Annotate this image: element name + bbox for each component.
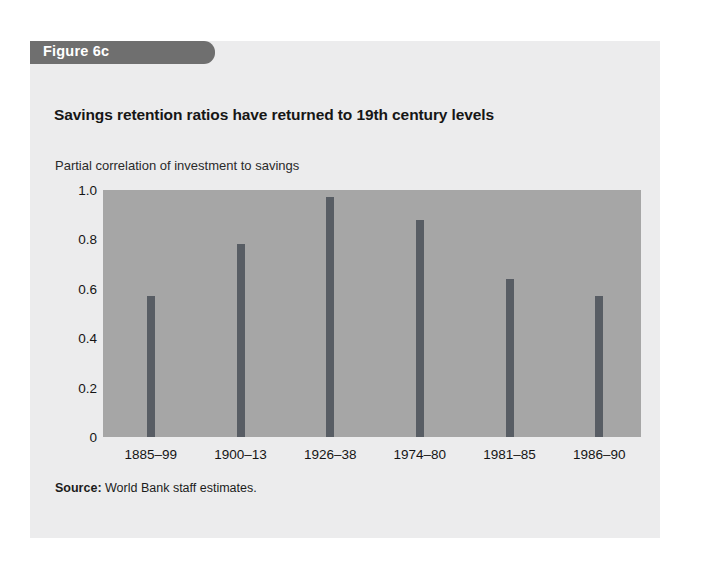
- source-line: Source: World Bank staff estimates.: [55, 481, 257, 495]
- x-axis-tick-label: 1900–13: [214, 447, 267, 462]
- x-axis-tick-label: 1885–99: [125, 447, 178, 462]
- y-axis: 00.20.40.60.81.0: [55, 190, 97, 437]
- bar: [326, 197, 334, 437]
- x-axis-tick-label: 1974–80: [394, 447, 447, 462]
- bar: [237, 244, 245, 437]
- source-label: Source:: [55, 481, 102, 495]
- bar: [595, 296, 603, 437]
- bar: [416, 220, 424, 437]
- y-axis-tick-label: 0.8: [78, 232, 97, 247]
- y-axis-tick-label: 0.6: [78, 281, 97, 296]
- chart-subtitle-axis-label: Partial correlation of investment to sav…: [55, 158, 299, 173]
- plot-area: [103, 190, 641, 437]
- x-axis-tick-label: 1986–90: [573, 447, 626, 462]
- page-root: Figure 6c Savings retention ratios have …: [0, 0, 703, 577]
- x-axis: 1885–991900–131926–381974–801981–851986–…: [103, 447, 641, 469]
- bar: [147, 296, 155, 437]
- x-axis-tick-label: 1926–38: [304, 447, 357, 462]
- source-text: World Bank staff estimates.: [105, 481, 257, 495]
- bar: [506, 279, 514, 437]
- y-axis-tick-label: 1.0: [78, 183, 97, 198]
- y-axis-tick-label: 0: [89, 430, 97, 445]
- chart-title: Savings retention ratios have returned t…: [54, 106, 494, 124]
- figure-tab-label: Figure 6c: [43, 43, 109, 59]
- bars-layer: [103, 190, 641, 437]
- x-axis-tick-label: 1981–85: [483, 447, 536, 462]
- y-axis-tick-label: 0.4: [78, 331, 97, 346]
- y-axis-tick-label: 0.2: [78, 380, 97, 395]
